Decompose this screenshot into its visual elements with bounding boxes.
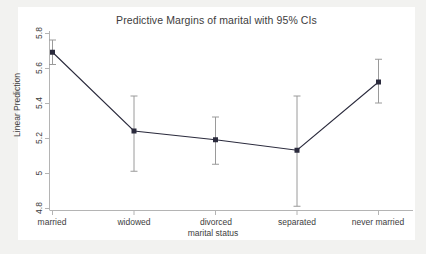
axes-group bbox=[45, 31, 413, 215]
data-point-marker bbox=[295, 148, 300, 153]
plot-svg bbox=[0, 0, 426, 254]
error-bars-group bbox=[49, 40, 382, 206]
data-markers-group bbox=[50, 50, 381, 153]
x-tick-marks bbox=[53, 211, 379, 216]
y-tick-marks bbox=[45, 34, 50, 209]
data-point-marker bbox=[132, 129, 137, 134]
data-point-marker bbox=[50, 50, 55, 55]
chart-figure: Predictive Margins of marital with 95% C… bbox=[0, 0, 426, 254]
data-point-marker bbox=[213, 137, 218, 142]
data-point-marker bbox=[376, 80, 381, 85]
